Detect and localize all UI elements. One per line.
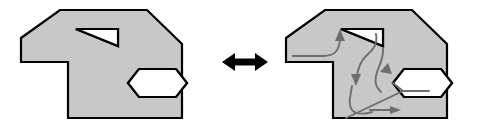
connector-left-arrowhead [222, 53, 235, 71]
right-panel-group [286, 10, 452, 118]
right-hexagonal-hole [393, 69, 452, 97]
connector-right-arrowhead [255, 53, 268, 71]
right-polygon-with-holes [286, 10, 452, 118]
figure-canvas [0, 0, 489, 128]
double-arrow-horizontal-icon [222, 53, 268, 71]
left-panel-group [21, 10, 187, 118]
left-polygon-with-holes [21, 10, 187, 118]
left-hexagonal-hole [128, 69, 187, 97]
figure-root [0, 0, 489, 128]
